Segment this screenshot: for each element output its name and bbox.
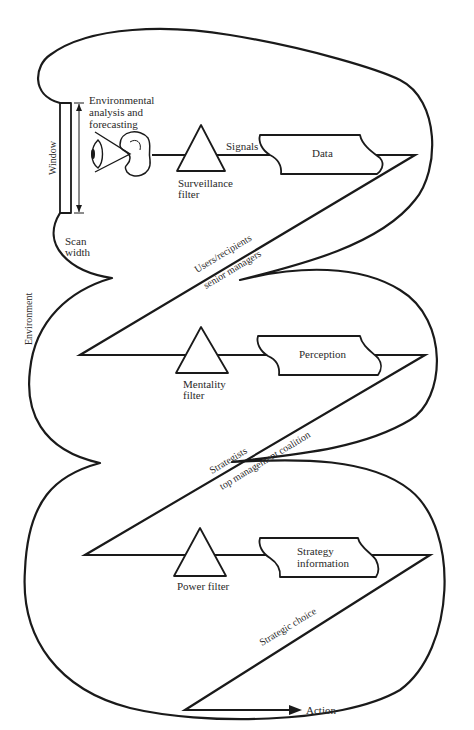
eye-icon xyxy=(91,132,130,172)
information-flow-path xyxy=(80,155,430,710)
mentality-filter-label-line2: filter xyxy=(183,389,205,401)
environment-boundary xyxy=(25,29,445,719)
strategy-information-label-line2: information xyxy=(297,557,349,569)
ear-icon xyxy=(120,132,150,176)
strategy-information-label-line1: Strategy xyxy=(297,545,334,557)
scan-width-arrow xyxy=(74,103,84,213)
filter-triangle-icon xyxy=(177,125,225,171)
data-label: Data xyxy=(312,147,333,159)
arrow-icon xyxy=(289,705,302,715)
filter-triangle-icon xyxy=(174,528,226,576)
signals-label: Signals xyxy=(226,140,258,152)
power-filter-label: Power filter xyxy=(177,580,230,592)
analysis-label-line3: forecasting xyxy=(89,118,138,130)
action-label: Action xyxy=(306,704,336,716)
window-label: Window xyxy=(47,140,58,175)
scan-width-label-line2: width xyxy=(65,246,91,258)
window-frame xyxy=(60,103,71,213)
filter-triangle-icon xyxy=(176,327,228,373)
analysis-label-line2: analysis and xyxy=(89,106,144,118)
surveillance-filter-label-line2: filter xyxy=(178,188,200,200)
environment-label: Environment xyxy=(23,293,34,345)
perception-label: Perception xyxy=(299,348,347,360)
strategic-choice-label: Strategic choice xyxy=(257,605,318,648)
environmental-scanning-diagram: Window Environmental analysis and foreca… xyxy=(0,0,474,730)
analysis-label-line1: Environmental xyxy=(89,94,154,106)
